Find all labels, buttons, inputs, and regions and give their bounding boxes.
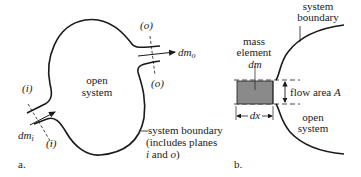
boundary-upper-curve [276,25,344,80]
inlet-plane-top-label: (i) [22,82,33,95]
region-label-2: system [82,86,113,98]
region-label: open [86,74,108,86]
mass-label-2: element [237,46,272,58]
region-label-2: system [298,122,329,134]
outlet-plane-top-label: (o) [140,19,153,32]
boundary-label: system boundary [148,124,223,136]
diagram-canvas: open system (i) (i) (o) (o) dmi dmo syst… [0,0,361,177]
figure-b: system boundary mass element dm flow are… [234,0,344,170]
outlet-plane-bottom-label: (o) [151,77,164,90]
flow-area-label: flow area A [290,86,341,98]
dm-label: dm [248,58,262,70]
outlet-plane-line [150,36,155,75]
figure-a: open system (i) (i) (o) (o) dmi dmo syst… [18,19,223,170]
outlet-mass-label: dmo [178,46,195,60]
caption-a: a. [18,158,26,170]
caption-b: b. [234,158,243,170]
boundary-label-2: boundary [297,11,339,23]
boundary-label-3: i and o) [146,148,180,161]
dx-label: dx [250,109,261,121]
outlet-arrow [138,52,175,56]
inlet-plane-bottom-label: (i) [46,137,57,150]
inlet-mass-label: dmi [18,129,34,143]
